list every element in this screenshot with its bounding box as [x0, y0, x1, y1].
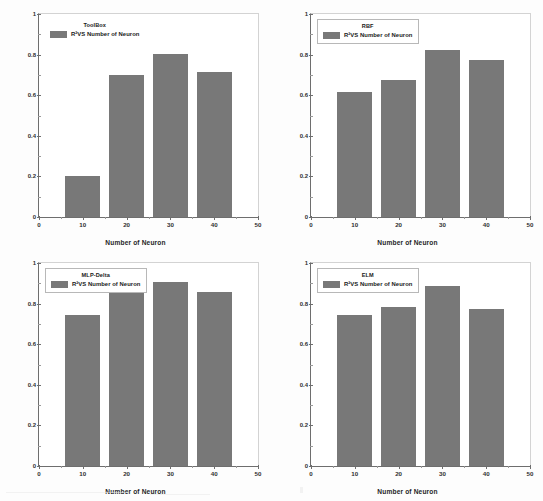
- chart-panel-elm: Coefficient of determinationNumber of Ne…: [272, 249, 543, 499]
- x-tick-label: 10: [351, 221, 358, 228]
- bar: [381, 80, 416, 217]
- y-tick-mark: [309, 136, 313, 137]
- y-tick-label: 0.6: [300, 341, 308, 347]
- x-tick-mark: [39, 465, 40, 469]
- x-tick-label: 50: [527, 470, 534, 477]
- bar: [65, 315, 100, 466]
- x-tick-minor: [236, 466, 237, 469]
- y-tick-label: 0: [305, 214, 308, 220]
- legend-mlp-delta: MLP-DeltaR²VS Number of Neuron: [45, 268, 147, 293]
- legend-swatch-icon: [51, 281, 68, 288]
- bar: [425, 286, 460, 466]
- bar: [469, 309, 504, 466]
- x-tick-minor: [377, 217, 378, 220]
- y-tick-label: 0.4: [300, 133, 308, 139]
- x-tick-mark: [311, 216, 312, 220]
- y-tick-minor: [310, 75, 313, 76]
- x-tick-minor: [149, 217, 150, 220]
- y-tick-label: 0: [33, 214, 36, 220]
- bar: [197, 292, 232, 466]
- y-tick-mark: [309, 304, 313, 305]
- legend-label: R²VS Number of Neuron: [72, 281, 140, 287]
- x-tick-label: 40: [211, 221, 218, 228]
- y-tick-mark: [37, 304, 41, 305]
- legend-entry: R²VS Number of Neuron: [323, 32, 412, 39]
- x-tick-mark: [258, 465, 259, 469]
- x-axis-label: Number of Neuron: [0, 488, 271, 495]
- x-tick-label: 0: [309, 470, 312, 477]
- y-tick-minor: [310, 283, 313, 284]
- y-tick-mark: [309, 55, 313, 56]
- x-tick-label: 10: [79, 221, 86, 228]
- x-tick-label: 20: [123, 470, 130, 477]
- bar: [381, 307, 416, 466]
- y-tick-label: 1: [305, 260, 308, 266]
- x-tick-minor: [149, 466, 150, 469]
- y-tick-label: 1: [305, 11, 308, 17]
- legend-swatch-icon: [323, 281, 340, 288]
- x-tick-minor: [377, 466, 378, 469]
- legend-swatch-icon: [50, 31, 67, 38]
- y-tick-minor: [310, 34, 313, 35]
- y-tick-minor: [310, 405, 313, 406]
- y-tick-label: 0.4: [300, 382, 308, 388]
- y-tick-label: 0.2: [28, 422, 36, 428]
- y-tick-mark: [37, 176, 41, 177]
- x-axis-label: Number of Neuron: [272, 488, 543, 495]
- x-tick-minor: [508, 217, 509, 220]
- x-tick-label: 0: [309, 221, 312, 228]
- y-tick-mark: [309, 14, 313, 15]
- x-tick-label: 20: [395, 221, 402, 228]
- x-tick-mark: [258, 216, 259, 220]
- x-tick-minor: [464, 217, 465, 220]
- plot-area-elm: 00.20.40.60.8101020304050ELMR²VS Number …: [310, 262, 531, 467]
- y-tick-label: 1: [33, 11, 36, 17]
- legend-toolbox: ToolBoxR²VS Number of Neuron: [45, 19, 145, 42]
- y-tick-label: 0.8: [28, 52, 36, 58]
- y-tick-label: 0.4: [28, 133, 36, 139]
- y-tick-mark: [37, 425, 41, 426]
- x-axis-label: Number of Neuron: [0, 239, 271, 246]
- y-tick-mark: [309, 385, 313, 386]
- y-tick-mark: [309, 95, 313, 96]
- y-tick-mark: [37, 14, 41, 15]
- bar: [337, 315, 372, 466]
- plot-area-toolbox: 00.20.40.60.8101020304050ToolBoxR²VS Num…: [38, 13, 259, 218]
- x-tick-label: 40: [211, 470, 218, 477]
- legend-swatch-icon: [323, 32, 340, 39]
- y-tick-mark: [37, 385, 41, 386]
- y-tick-minor: [38, 116, 41, 117]
- bar: [425, 50, 460, 217]
- y-tick-label: 0.8: [300, 301, 308, 307]
- y-tick-minor: [310, 365, 313, 366]
- y-tick-minor: [38, 156, 41, 157]
- legend-label: R²VS Number of Neuron: [344, 281, 412, 287]
- bar: [65, 176, 100, 217]
- y-tick-label: 0: [33, 463, 36, 469]
- bar: [153, 282, 188, 466]
- y-tick-minor: [310, 446, 313, 447]
- x-tick-mark: [39, 216, 40, 220]
- y-tick-minor: [38, 365, 41, 366]
- x-tick-minor: [333, 217, 334, 220]
- y-tick-minor: [310, 156, 313, 157]
- legend-entry: R²VS Number of Neuron: [50, 31, 139, 38]
- x-tick-minor: [421, 217, 422, 220]
- y-tick-minor: [38, 405, 41, 406]
- x-tick-label: 10: [351, 470, 358, 477]
- y-tick-minor: [310, 197, 313, 198]
- x-tick-label: 0: [37, 221, 40, 228]
- x-tick-label: 20: [395, 470, 402, 477]
- y-tick-minor: [38, 283, 41, 284]
- y-tick-minor: [310, 116, 313, 117]
- x-tick-minor: [61, 217, 62, 220]
- x-tick-label: 40: [483, 221, 490, 228]
- bar: [469, 60, 504, 217]
- bar: [153, 54, 188, 217]
- x-tick-minor: [105, 217, 106, 220]
- x-tick-label: 30: [167, 221, 174, 228]
- y-tick-minor: [38, 34, 41, 35]
- x-tick-label: 30: [439, 221, 446, 228]
- y-tick-mark: [37, 263, 41, 264]
- y-tick-mark: [309, 425, 313, 426]
